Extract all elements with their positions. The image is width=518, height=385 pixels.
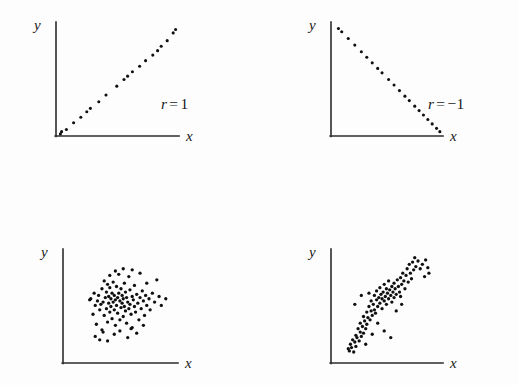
- x-axis-label: x: [184, 355, 192, 371]
- panel-r-point8: y x r=.8: [259, 192, 518, 385]
- data-point: [393, 287, 396, 290]
- data-point: [385, 287, 388, 290]
- data-point: [426, 118, 429, 121]
- data-point: [397, 285, 400, 288]
- data-point: [145, 304, 148, 307]
- data-point: [392, 84, 395, 87]
- data-point: [376, 67, 379, 70]
- data-point: [119, 306, 122, 309]
- data-point: [362, 331, 365, 334]
- data-point: [413, 256, 416, 259]
- data-point: [418, 109, 421, 112]
- data-point: [123, 282, 126, 285]
- data-point: [378, 286, 381, 289]
- data-point: [138, 65, 141, 68]
- data-point: [131, 295, 134, 298]
- data-point: [120, 294, 123, 297]
- equals-sign: =: [167, 95, 180, 112]
- data-point: [381, 71, 384, 74]
- x-axis-label: x: [449, 355, 457, 371]
- data-point: [407, 280, 410, 283]
- data-point: [72, 121, 75, 124]
- data-point: [395, 293, 398, 296]
- data-point: [352, 350, 355, 353]
- data-point: [104, 93, 107, 96]
- data-point: [431, 122, 434, 125]
- data-point: [112, 280, 115, 283]
- data-point: [116, 312, 119, 315]
- data-point: [115, 304, 118, 307]
- data-point: [364, 343, 367, 346]
- data-point: [156, 49, 159, 52]
- data-point: [108, 286, 111, 289]
- data-point: [337, 27, 340, 30]
- data-point: [408, 263, 411, 266]
- data-point: [101, 300, 104, 303]
- data-point: [133, 305, 136, 308]
- y-axis-label: y: [307, 244, 316, 260]
- data-point: [395, 309, 398, 312]
- data-point: [94, 304, 97, 307]
- data-point: [60, 130, 63, 133]
- data-point: [143, 314, 146, 317]
- data-point: [106, 320, 109, 323]
- data-point: [340, 30, 343, 33]
- data-point: [140, 307, 143, 310]
- data-point: [354, 345, 357, 348]
- data-point: [404, 274, 407, 277]
- data-point: [123, 305, 126, 308]
- data-point: [133, 284, 136, 287]
- r-value-label: r=1: [161, 95, 188, 113]
- panel-r-1: y x r=1: [0, 0, 259, 192]
- data-point: [164, 297, 167, 300]
- data-point: [376, 305, 379, 308]
- data-point: [118, 329, 121, 332]
- data-point: [151, 54, 154, 57]
- data-point: [114, 324, 117, 327]
- data-point: [144, 294, 147, 297]
- data-point: [108, 310, 111, 313]
- panel-r-point4: y x r=.4: [0, 192, 259, 385]
- data-point: [148, 308, 151, 311]
- data-point: [387, 78, 390, 81]
- data-point: [108, 274, 111, 277]
- data-point: [127, 307, 130, 310]
- data-point: [138, 272, 141, 275]
- data-point: [103, 279, 106, 282]
- data-point: [386, 292, 389, 295]
- data-point: [116, 296, 119, 299]
- data-point: [127, 275, 130, 278]
- data-point: [353, 340, 356, 343]
- data-point: [387, 279, 390, 282]
- data-point: [438, 130, 441, 133]
- data-point: [349, 343, 352, 346]
- data-point: [151, 292, 154, 295]
- data-point: [412, 268, 415, 271]
- data-point: [396, 278, 399, 281]
- r-value-label: r=−1: [428, 95, 464, 113]
- data-point: [387, 297, 390, 300]
- data-point: [104, 296, 107, 299]
- data-point: [348, 349, 351, 352]
- data-point: [390, 285, 393, 288]
- data-point: [94, 335, 97, 338]
- data-point: [132, 298, 135, 301]
- data-point: [92, 292, 95, 295]
- data-point: [363, 319, 366, 322]
- data-point: [422, 113, 425, 116]
- data-point: [115, 285, 118, 288]
- data-point: [370, 299, 373, 302]
- data-point: [97, 294, 100, 297]
- y-axis-label: y: [307, 17, 316, 33]
- data-point: [356, 327, 359, 330]
- x-axis-label: x: [185, 128, 193, 144]
- data-point: [95, 323, 98, 326]
- data-point: [435, 127, 438, 130]
- data-point: [367, 292, 370, 295]
- data-point: [105, 307, 108, 310]
- data-point: [65, 128, 68, 131]
- data-point: [388, 288, 391, 291]
- data-point: [380, 307, 383, 310]
- data-point: [128, 303, 131, 306]
- data-point: [120, 302, 123, 305]
